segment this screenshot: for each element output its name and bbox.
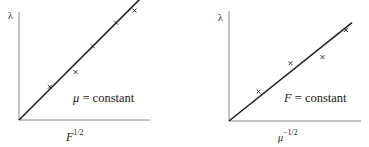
data-point-cross-icon	[91, 44, 95, 48]
y-axis-label: λ	[8, 10, 13, 21]
annotation-text: = constant	[292, 91, 347, 105]
data-point-cross-icon	[289, 61, 293, 65]
annotation-text: = constant	[79, 91, 134, 105]
data-point-cross-icon	[114, 21, 118, 25]
annotation-constant: F = constant	[284, 91, 347, 106]
chart-right-plot	[184, 0, 369, 147]
x-axis-label-exponent: 1/2	[73, 128, 83, 137]
annotation-constant: μ = constant	[73, 91, 134, 106]
annotation-symbol: F	[284, 91, 292, 105]
x-axis-label: μ−1/2	[278, 128, 298, 143]
chart-left: λ F1/2 μ = constant	[0, 0, 184, 147]
data-point-cross-icon	[320, 55, 324, 59]
data-point-cross-icon	[257, 89, 261, 93]
data-point-cross-icon	[344, 28, 348, 32]
data-point-cross-icon	[74, 70, 78, 74]
x-axis-label: F1/2	[66, 128, 84, 145]
fit-line	[229, 23, 352, 121]
data-point-cross-icon	[133, 9, 137, 13]
y-axis-label: λ	[218, 12, 223, 23]
chart-right: λ μ−1/2 F = constant	[184, 0, 369, 147]
x-axis-label-exponent: −1/2	[283, 128, 298, 137]
chart-left-plot	[0, 0, 184, 147]
